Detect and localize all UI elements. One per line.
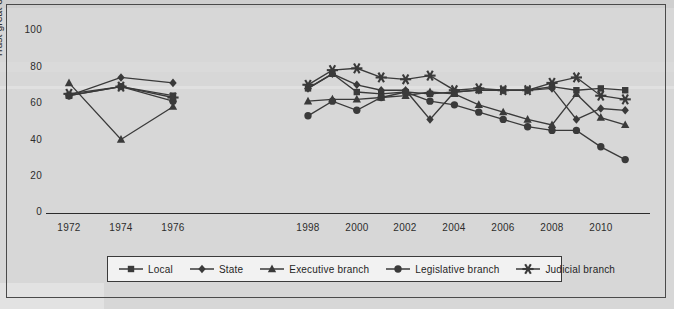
legend-label: Local	[148, 264, 173, 275]
circle-marker-icon	[385, 263, 411, 275]
star-marker-icon	[515, 263, 541, 275]
legend-label: Executive branch	[289, 264, 369, 275]
legend-item-state[interactable]: State	[189, 263, 243, 275]
legend-item-executive-branch[interactable]: Executive branch	[259, 263, 369, 275]
square-marker-icon	[118, 263, 144, 275]
legend-item-legislative-branch[interactable]: Legislative branch	[385, 263, 499, 275]
legend-label: State	[219, 264, 243, 275]
triangle-marker-icon	[259, 263, 285, 275]
legend-item-judicial-branch[interactable]: Judicial branch	[515, 263, 615, 275]
legend-label: Legislative branch	[415, 264, 499, 275]
chart-legend: LocalStateExecutive branchLegislative br…	[107, 256, 562, 282]
legend-label: Judicial branch	[545, 264, 615, 275]
legend-item-local[interactable]: Local	[118, 263, 173, 275]
series-state	[65, 69, 629, 123]
chart-figure: Trust great or fair 100 80 60 40 20 0 19…	[0, 0, 674, 309]
diamond-marker-icon	[189, 263, 215, 275]
series-judicial-branch	[63, 63, 630, 104]
